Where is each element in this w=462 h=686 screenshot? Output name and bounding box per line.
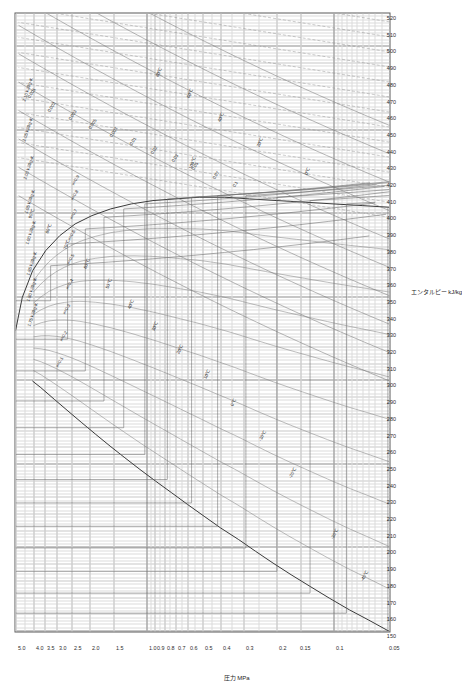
isochore-0.03 — [18, 52, 389, 112]
x-tick-label: 210 — [386, 532, 395, 538]
isochore-0.002 — [18, 142, 389, 202]
quality-line-x0.8 — [33, 255, 389, 291]
isentrope-1.70 — [18, 195, 389, 380]
x-tick-label: 190 — [386, 565, 395, 571]
x-tick-label: 410 — [386, 198, 395, 204]
x-tick-label: 330 — [386, 331, 395, 337]
isochore-0.2 — [18, 13, 389, 51]
isochore-0.5 — [32, 13, 389, 21]
x-tick-label: 470 — [386, 98, 395, 104]
y-tick-label: 0.1 — [321, 644, 343, 650]
x-axis-title: エンタルピー kJ/kg — [410, 286, 462, 295]
isentrope-2.10 — [18, 13, 389, 153]
x-tick-label: 320 — [386, 348, 395, 354]
y-tick-label: 1.5 — [101, 644, 123, 650]
isochore-0.07 — [18, 22, 389, 82]
quality-line-x0.9 — [33, 228, 389, 280]
x-tick-label: 360 — [386, 281, 395, 287]
x-tick-label: 160 — [386, 615, 395, 621]
x-tick-label: 290 — [386, 398, 395, 404]
plot-area: -40℃-30℃-20℃-10℃0℃10℃20℃30℃40℃50℃60℃70℃8… — [14, 12, 390, 632]
isochore-0.003 — [18, 127, 389, 187]
isotherm-70C — [15, 202, 374, 370]
x-tick-label: 280 — [386, 415, 395, 421]
y-tick-label: 0.3 — [231, 644, 253, 650]
x-tick-label: 310 — [386, 365, 395, 371]
y-tick-label: 0.15 — [288, 644, 310, 650]
quality-line-x0.2 — [33, 359, 389, 546]
saturated-liquid-line — [32, 380, 389, 631]
x-tick-label: 440 — [386, 148, 395, 154]
x-tick-label: 500 — [386, 47, 395, 53]
isentrope-1.90 — [18, 82, 389, 267]
x-tick-label: 430 — [386, 164, 395, 170]
x-tick-label: 150 — [386, 632, 395, 638]
x-tick-label: 520 — [386, 14, 395, 20]
isentrope-1.75 — [18, 167, 389, 352]
y-tick-label: 1.0 — [134, 644, 156, 650]
isotherm-50C — [15, 186, 384, 427]
y-axis-title: 圧力 MPa — [223, 672, 249, 681]
x-tick-label: 370 — [386, 265, 395, 271]
isotherm--10C — [15, 189, 389, 571]
x-tick-label: 490 — [386, 64, 395, 70]
y-tick-label: 0.05 — [377, 644, 399, 650]
isochore-0.02 — [18, 67, 389, 127]
x-tick-label: 340 — [386, 315, 395, 321]
x-tick-label: 390 — [386, 231, 395, 237]
x-tick-label: 270 — [386, 432, 395, 438]
curve-layer — [15, 13, 389, 631]
isotherm-80C — [15, 214, 386, 339]
y-tick-label: 5.0 — [3, 644, 25, 650]
quality-line-x0.3 — [33, 348, 389, 504]
x-tick-label: 250 — [386, 465, 395, 471]
x-tick-label: 400 — [386, 214, 395, 220]
quality-line-x0.5 — [33, 320, 389, 419]
isentrope-2.00 — [18, 25, 389, 210]
x-tick-label: 460 — [386, 114, 395, 120]
isotherm-10C — [15, 182, 389, 526]
isochore-0.01 — [18, 82, 389, 142]
x-tick-label: 200 — [386, 549, 395, 555]
x-tick-label: 480 — [386, 81, 395, 87]
x-tick-label: 350 — [386, 298, 395, 304]
x-tick-label: 220 — [386, 515, 395, 521]
isochore-0.007 — [18, 97, 389, 157]
saturated-vapor-line — [15, 197, 389, 331]
isochore-0.3 — [18, 13, 389, 36]
isentrope-1.85 — [18, 110, 389, 295]
x-tick-label: 260 — [386, 448, 395, 454]
x-tick-label: 230 — [386, 498, 395, 504]
isotherm--20C — [15, 194, 389, 592]
quality-line-x0.6 — [33, 301, 389, 377]
isochore-0.1 — [18, 13, 389, 66]
isentrope-1.80 — [18, 138, 389, 323]
isochore-0.005 — [18, 112, 389, 172]
x-tick-label: 380 — [386, 248, 395, 254]
x-tick-label: 510 — [386, 31, 395, 37]
x-tick-label: 420 — [386, 181, 395, 187]
isentrope-2.05 — [18, 13, 389, 182]
x-tick-label: 240 — [386, 482, 395, 488]
x-tick-label: 170 — [386, 599, 395, 605]
x-tick-label: 450 — [386, 131, 395, 137]
quality-line-x0.4 — [33, 335, 389, 461]
x-tick-label: 180 — [386, 582, 395, 588]
y-tick-label: 0.2 — [264, 644, 286, 650]
quality-line-x0.7 — [33, 280, 389, 334]
isotherm-30C — [15, 182, 370, 479]
isochore-0.05 — [18, 37, 389, 97]
x-tick-label: 300 — [386, 381, 395, 387]
